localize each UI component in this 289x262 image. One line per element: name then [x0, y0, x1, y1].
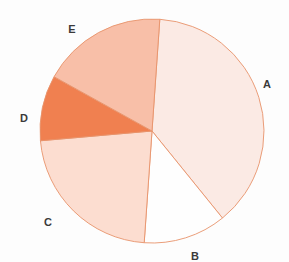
pie-label-d: D [20, 112, 28, 124]
pie-label-e: E [68, 23, 76, 35]
pie-slice-group [40, 19, 264, 243]
pie-label-c: C [44, 216, 52, 228]
pie-chart-figure: ABCDE [0, 0, 289, 262]
pie-slice-c[interactable] [40, 131, 152, 243]
pie-label-a: A [263, 78, 271, 90]
pie-label-b: B [191, 250, 199, 262]
